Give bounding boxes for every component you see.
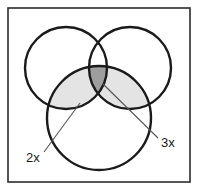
callout-3x-label: 3x (161, 135, 175, 150)
venn-diagram-figure: 2x 3x (0, 0, 201, 194)
diagram-canvas: 2x 3x (0, 0, 201, 194)
callout-2x-label: 2x (26, 150, 40, 165)
